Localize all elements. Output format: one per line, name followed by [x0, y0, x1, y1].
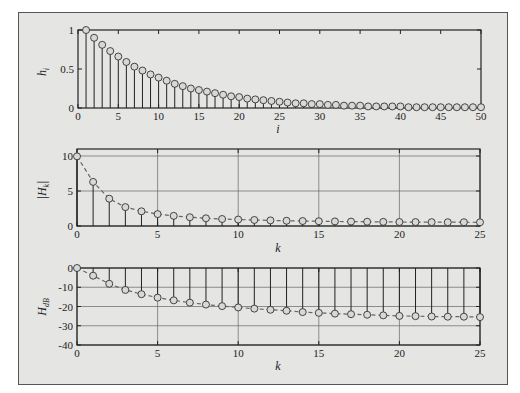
x-tick-label: 10 [233, 228, 245, 240]
y-tick-label: -40 [58, 339, 73, 351]
x-tick-label: 35 [355, 110, 367, 122]
stem-marker [429, 104, 436, 111]
stem-marker [461, 104, 468, 111]
stem-marker [445, 104, 452, 111]
y-tick-label: -10 [58, 281, 73, 293]
stem-marker [74, 265, 81, 272]
plot-impulse-response: 0510152025303540455000.51 [60, 24, 487, 122]
x-tick-label: 15 [313, 347, 325, 359]
stem-marker [300, 100, 307, 107]
stem-marker [292, 100, 299, 107]
stem-marker [412, 219, 419, 226]
y-tick-label: 0 [68, 220, 74, 232]
stem-marker [364, 311, 371, 318]
stem-marker [260, 97, 267, 104]
stem-marker [228, 93, 235, 100]
y-tick-label: -30 [58, 320, 73, 332]
stem-marker [267, 306, 274, 313]
x-tick-label: 25 [475, 228, 487, 240]
stem-marker [170, 212, 177, 219]
y-tick-label: -20 [58, 301, 73, 313]
stem-marker [138, 208, 145, 215]
y-tick-label: 0.5 [60, 63, 74, 75]
stem-marker [365, 103, 372, 110]
p1-xlabel: i [276, 122, 279, 136]
stem-marker [123, 58, 130, 65]
figure: 0510152025303540455000.51 05101520250510… [0, 0, 520, 393]
stem-marker [396, 312, 403, 319]
stem-marker [315, 309, 322, 316]
x-tick-label: 20 [394, 228, 406, 240]
stem-marker [267, 217, 274, 224]
stem-marker [348, 311, 355, 318]
stem-marker [348, 218, 355, 225]
stem-marker [460, 313, 467, 320]
axes-box [78, 30, 481, 108]
x-tick-label: 40 [395, 110, 407, 122]
stem-marker [107, 48, 114, 55]
x-tick-label: 45 [435, 110, 447, 122]
stem-marker [315, 218, 322, 225]
stem-marker [170, 297, 177, 304]
stem-marker [219, 216, 226, 223]
stem-marker [202, 215, 209, 222]
stem-marker [380, 218, 387, 225]
stem-marker [179, 83, 186, 90]
stem-marker [115, 53, 122, 60]
stem-marker [235, 216, 242, 223]
x-tick-label: 20 [394, 347, 406, 359]
stem-marker [478, 104, 485, 111]
stem-marker [186, 299, 193, 306]
stem-marker [412, 313, 419, 320]
stem-marker [212, 90, 219, 97]
stem-marker [106, 195, 113, 202]
stem-marker [139, 67, 146, 74]
stem-marker [122, 286, 129, 293]
stem-marker [90, 272, 97, 279]
stem-marker [299, 218, 306, 225]
x-tick-label: 15 [313, 228, 325, 240]
p1-ylabel: hi [35, 68, 51, 76]
stem-marker [131, 63, 138, 70]
stem-marker [251, 216, 258, 223]
envelope-line [77, 268, 480, 317]
p2-ylabel: |Hk| [35, 181, 51, 200]
stem-marker [171, 80, 178, 87]
stem-marker [460, 219, 467, 226]
stem-marker [220, 91, 227, 98]
x-tick-label: 15 [193, 110, 205, 122]
stem-marker [324, 101, 331, 108]
stem-marker [154, 211, 161, 218]
y-tick-label: 5 [68, 185, 74, 197]
stem-marker [444, 219, 451, 226]
x-tick-label: 30 [314, 110, 326, 122]
y-tick-label: 0 [68, 262, 74, 274]
stem-marker [235, 304, 242, 311]
axes-box [77, 149, 480, 226]
y-tick-label: 10 [62, 150, 74, 162]
stem-marker [389, 103, 396, 110]
x-tick-label: 5 [116, 110, 122, 122]
stem-marker [99, 41, 106, 48]
p3-ylabel: HdB [35, 298, 51, 317]
stem-marker [444, 313, 451, 320]
stem-marker [453, 104, 460, 111]
x-tick-label: 0 [74, 228, 80, 240]
stem-marker [477, 314, 484, 321]
x-tick-label: 50 [476, 110, 488, 122]
stem-marker [276, 98, 283, 105]
plot-magnitude-db: 05101520250-10-20-30-40 [58, 262, 486, 359]
stem-marker [357, 102, 364, 109]
stem-marker [316, 101, 323, 108]
p3-xlabel: k [275, 359, 281, 373]
stem-marker [332, 101, 339, 108]
stem-marker [138, 291, 145, 298]
stem-marker [331, 218, 338, 225]
stem-marker [106, 280, 113, 287]
stem-marker [428, 313, 435, 320]
stem-marker [155, 74, 162, 81]
stem-marker [380, 312, 387, 319]
stem-marker [299, 309, 306, 316]
stem-marker [381, 103, 388, 110]
stem-marker [340, 102, 347, 109]
